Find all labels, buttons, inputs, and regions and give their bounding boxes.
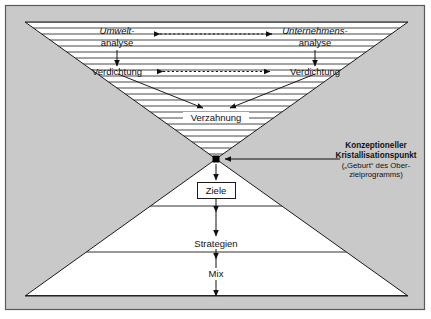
umweltanalyse-label-line1: Umwelt- — [100, 25, 135, 36]
annotation-line-4: zielprogramms) — [349, 170, 403, 179]
verdichtung-right-label: Verdichtung — [290, 66, 340, 77]
diagram-figure: Umwelt- analyse Unternehmens- analyse Ve… — [0, 0, 431, 319]
verdichtung-left-label: Verdichtung — [92, 66, 142, 77]
crystallization-point-marker — [213, 156, 220, 163]
verzahnung-label: Verzahnung — [191, 112, 242, 123]
mix-label: Mix — [209, 268, 224, 279]
ziele-label: Ziele — [206, 185, 227, 196]
umweltanalyse-label-line2: analyse — [101, 37, 134, 48]
strategien-label: Strategien — [194, 238, 237, 249]
annotation-line-2: Kristallisationspunkt — [336, 151, 417, 160]
annotation-line-1: Konzeptioneller — [345, 141, 407, 150]
unternehmensanalyse-label-line2: analyse — [299, 37, 332, 48]
annotation-line-3: („Geburt“ des Ober- — [342, 161, 411, 170]
unternehmensanalyse-label-line1: Unternehmens- — [282, 25, 347, 36]
